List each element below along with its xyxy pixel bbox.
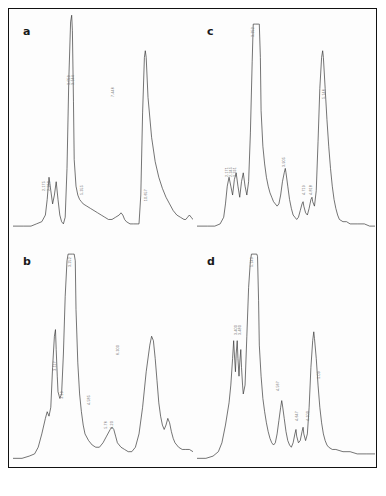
peak-label: 5.09 bbox=[318, 371, 322, 379]
peak-label: 5.143 bbox=[251, 257, 255, 267]
peak-label: 2.260 bbox=[48, 181, 52, 191]
peak-label: 4.719 bbox=[303, 185, 307, 195]
peak-label: 3.252 bbox=[252, 27, 256, 37]
panel-b-trace bbox=[13, 243, 193, 465]
panel-a: a 2.175 2.260 3.059 3.144 5.355 7.446 10… bbox=[13, 13, 193, 235]
peak-label: 3.19 bbox=[61, 391, 65, 399]
panel-c: c 3.252 2.171 2.245 2.331 3.905 4.719 4.… bbox=[197, 13, 375, 235]
panel-d-trace bbox=[197, 243, 375, 465]
peak-label: 5.76 bbox=[105, 421, 109, 429]
figure-frame: a 2.175 2.260 3.059 3.144 5.355 7.446 10… bbox=[8, 8, 377, 468]
peak-label: 3.252 bbox=[69, 257, 73, 267]
peak-label: 3.117 bbox=[54, 361, 58, 371]
peak-label: 4.100 bbox=[307, 411, 311, 421]
peak-label: 4.818 bbox=[310, 185, 314, 195]
peak-label: 5.146 bbox=[323, 89, 327, 99]
panel-b: b 3.252 3.117 3.19 4.585 5.76 6.20 6.300 bbox=[13, 243, 193, 465]
panel-d: d 5.143 3.400 3.480 4.567 4.647 4.100 5.… bbox=[197, 243, 375, 465]
peak-label: 5.355 bbox=[81, 185, 85, 195]
peak-label: 4.647 bbox=[296, 411, 300, 421]
peak-label: 4.585 bbox=[88, 395, 92, 405]
peak-label: 3.480 bbox=[239, 325, 243, 335]
panel-a-trace bbox=[13, 13, 193, 235]
peak-label: 4.567 bbox=[277, 381, 281, 391]
peak-label: 3.905 bbox=[283, 157, 287, 167]
peak-label: 3.144 bbox=[72, 75, 76, 85]
peak-label: 6.300 bbox=[117, 345, 121, 355]
peak-label: 2.331 bbox=[234, 167, 238, 177]
peak-label: 6.20 bbox=[111, 421, 115, 429]
peak-label: 10.657 bbox=[145, 189, 149, 201]
panel-c-trace bbox=[197, 13, 375, 235]
peak-label: 7.446 bbox=[112, 87, 116, 97]
